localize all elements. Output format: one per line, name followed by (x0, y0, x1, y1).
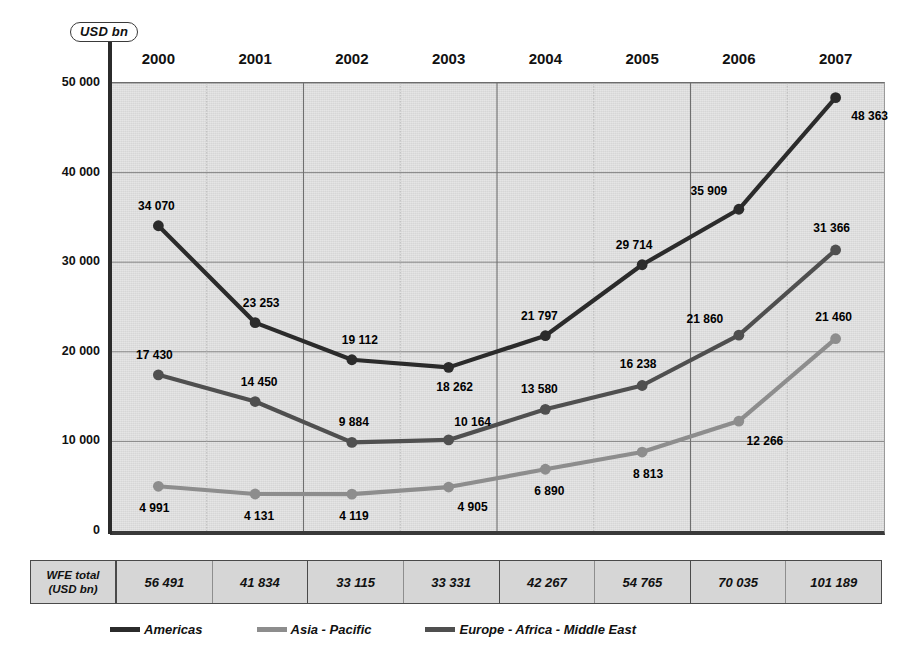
data-point (733, 416, 744, 427)
data-label: 29 714 (616, 238, 653, 252)
legend-item-0[interactable]: Americas (110, 622, 203, 637)
data-label: 6 890 (534, 484, 564, 498)
data-point (830, 245, 841, 256)
data-label: 12 266 (747, 434, 784, 448)
unit-badge: USD bn (70, 22, 138, 42)
data-point (346, 354, 357, 365)
data-point (637, 447, 648, 458)
y-axis-line (108, 40, 112, 534)
wfe-total-cell-2003: 33 331 (404, 561, 500, 603)
legend-label: Europe - Africa - Middle East (459, 622, 636, 637)
data-label: 9 884 (339, 415, 369, 429)
wfe-total-cell-2007: 101 189 (786, 561, 881, 603)
data-label: 14 450 (241, 375, 278, 389)
legend-item-1[interactable]: Asia - Pacific (257, 622, 372, 637)
data-label: 4 991 (139, 501, 169, 515)
legend-swatch-icon (110, 627, 140, 632)
y-axis-tick-30000: 30 000 (28, 254, 100, 268)
data-label: 4 905 (458, 500, 488, 514)
data-label: 4 119 (339, 509, 368, 523)
y-axis-tick-labels: 010 00020 00030 00040 00050 000 (20, 0, 100, 665)
data-label: 17 430 (136, 348, 173, 362)
data-point (733, 330, 744, 341)
data-point (250, 489, 261, 500)
data-label: 19 112 (342, 333, 378, 347)
data-point (443, 482, 454, 493)
data-label: 21 460 (815, 310, 852, 324)
data-point (540, 404, 551, 415)
legend-swatch-icon (425, 627, 455, 632)
data-point (830, 92, 841, 103)
wfe-total-row: WFE total(USD bn)56 49141 83433 11533 33… (30, 560, 882, 604)
legend-item-2[interactable]: Europe - Africa - Middle East (425, 622, 636, 637)
data-point (733, 204, 744, 215)
data-label: 21 860 (687, 312, 724, 326)
data-point (250, 317, 261, 328)
data-point (540, 330, 551, 341)
year-header-2001: 2001 (207, 42, 304, 74)
data-label: 16 238 (620, 357, 657, 371)
wfe-total-cell-2002: 33 115 (308, 561, 404, 603)
wfe-total-cell-2004: 42 267 (500, 561, 596, 603)
chart-page: USD bn 010 00020 00030 00040 00050 000 2… (0, 0, 904, 665)
y-axis-tick-20000: 20 000 (28, 344, 100, 358)
y-axis-tick-50000: 50 000 (28, 75, 100, 89)
y-axis-tick-0: 0 (28, 523, 100, 537)
data-label: 10 164 (454, 415, 491, 429)
legend-label: Americas (144, 622, 203, 637)
year-header-2005: 2005 (594, 42, 691, 74)
legend-label: Asia - Pacific (291, 622, 372, 637)
data-label: 8 813 (633, 467, 663, 481)
data-point (250, 396, 261, 407)
x-axis-year-header: 20002001200220032004200520062007 (110, 42, 884, 74)
wfe-total-cell-2000: 56 491 (117, 561, 213, 603)
data-point (443, 435, 454, 446)
data-point (540, 464, 551, 475)
data-point (153, 220, 164, 231)
data-point (637, 259, 648, 270)
data-point (637, 380, 648, 391)
data-label: 23 253 (243, 296, 280, 310)
year-header-2003: 2003 (400, 42, 497, 74)
year-header-2004: 2004 (497, 42, 594, 74)
data-label: 4 131 (244, 509, 274, 523)
data-label: 13 580 (521, 382, 558, 396)
year-header-2006: 2006 (691, 42, 788, 74)
year-header-2000: 2000 (110, 42, 207, 74)
data-point (443, 362, 454, 373)
chart-legend: AmericasAsia - PacificEurope - Africa - … (110, 618, 810, 640)
data-point (346, 437, 357, 448)
year-header-2002: 2002 (304, 42, 401, 74)
data-point (153, 481, 164, 492)
y-axis-tick-40000: 40 000 (28, 165, 100, 179)
data-label: 18 262 (436, 380, 473, 394)
data-label: 48 363 (851, 109, 888, 123)
data-point (153, 369, 164, 380)
wfe-total-cell-2001: 41 834 (213, 561, 309, 603)
data-label: 31 366 (813, 221, 850, 235)
data-label: 34 070 (138, 199, 175, 213)
data-point (346, 489, 357, 500)
wfe-total-cell-2006: 70 035 (691, 561, 787, 603)
data-point (830, 333, 841, 344)
legend-swatch-icon (257, 627, 287, 632)
y-axis-tick-10000: 10 000 (28, 433, 100, 447)
plot-area: 34 07023 25319 11218 26221 79729 71435 9… (110, 82, 885, 535)
data-label: 35 909 (691, 184, 728, 198)
series-canvas (110, 83, 884, 531)
year-header-2007: 2007 (787, 42, 884, 74)
wfe-total-cell-2005: 54 765 (595, 561, 691, 603)
data-label: 21 797 (521, 309, 558, 323)
